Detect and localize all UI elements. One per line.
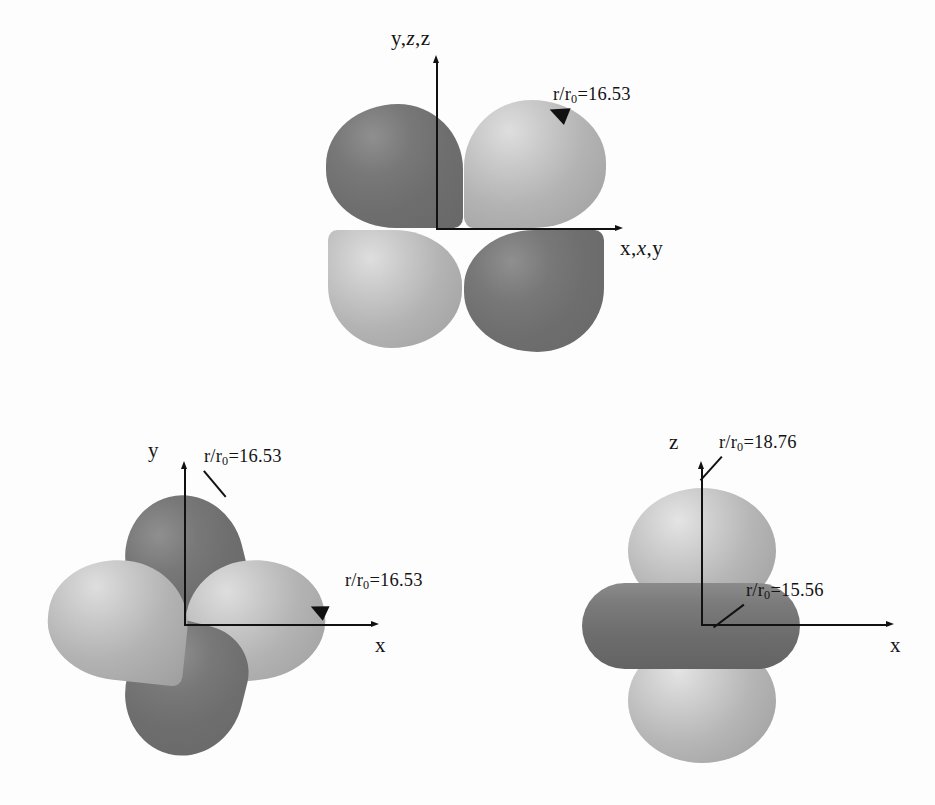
bl-axis-horizontal-arrowhead — [371, 621, 379, 627]
top-orbital-panel: y,z,z x,x,y r/r0=16.53 — [0, 0, 935, 380]
br-vertical-axis-label: z — [669, 430, 679, 455]
bl-callout-horizontal-label: r/r0=16.53 — [345, 570, 423, 593]
top-axis-horizontal — [436, 228, 616, 230]
bl-axis-vertical-arrowhead — [181, 461, 187, 469]
top-lobe-upper-left — [326, 104, 463, 228]
br-callout-horizontal-label: r/r0=15.56 — [746, 580, 824, 603]
top-lobe-lower-right — [464, 230, 604, 352]
top-vertical-axis-label: y,z,z — [391, 26, 431, 51]
bl-axis-vertical — [184, 468, 186, 626]
top-axis-horizontal-arrowhead — [615, 225, 623, 231]
top-axis-vertical — [436, 62, 438, 230]
bl-callout-vertical-leader — [203, 470, 226, 497]
top-axis-vertical-arrowhead — [433, 55, 439, 63]
br-axis-horizontal — [701, 624, 887, 626]
bl-callout-vertical-label: r/r0=16.53 — [204, 446, 282, 469]
br-axis-horizontal-arrowhead — [886, 621, 894, 627]
bl-horizontal-axis-label: x — [375, 633, 386, 658]
top-callout-label: r/r0=16.53 — [553, 84, 631, 107]
bl-axis-horizontal — [184, 624, 372, 626]
br-axis-vertical-arrowhead — [698, 461, 704, 469]
top-lobe-lower-left — [328, 230, 462, 348]
bottom-right-orbital-panel: z x r/r0=18.76 r/r0=15.56 — [470, 400, 935, 805]
br-axis-vertical — [701, 468, 703, 626]
bottom-left-orbital-panel: y x r/r0=16.53 r/r0=16.53 — [0, 400, 470, 805]
br-horizontal-axis-label: x — [890, 633, 901, 658]
bl-vertical-axis-label: y — [148, 438, 159, 463]
top-horizontal-axis-label: x,x,y — [620, 236, 663, 261]
top-lobe-upper-right — [464, 100, 606, 228]
br-callout-vertical-label: r/r0=18.76 — [719, 432, 797, 455]
